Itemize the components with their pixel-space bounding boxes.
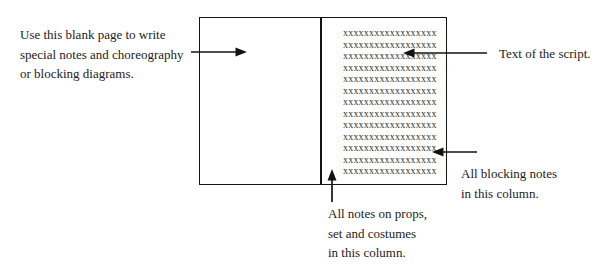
script-line: xxxxxxxxxxxxxxxxxx (343, 62, 437, 74)
script-line: xxxxxxxxxxxxxxxxxx (343, 119, 437, 131)
script-line: xxxxxxxxxxxxxxxxxx (343, 96, 437, 108)
script-line: xxxxxxxxxxxxxxxxxx (343, 85, 437, 97)
script-line: xxxxxxxxxxxxxxxxxx (343, 39, 437, 51)
blocking-notes-line-2: in this column. (461, 184, 557, 204)
blank-page-note-line-3: or blocking diagrams. (20, 64, 184, 84)
blank-page-note-line-1: Use this blank page to write (20, 25, 184, 45)
props-note-line-3: in this column. (328, 243, 427, 263)
script-text-column: xxxxxxxxxxxxxxxxxxxxxxxxxxxxxxxxxxxxxxxx… (343, 27, 437, 177)
page-divider-line (320, 18, 322, 184)
blank-page-note-line-2: special notes and choreography (20, 45, 184, 65)
figure-canvas: xxxxxxxxxxxxxxxxxxxxxxxxxxxxxxxxxxxxxxxx… (0, 0, 607, 270)
script-line: xxxxxxxxxxxxxxxxxx (343, 27, 437, 39)
script-line: xxxxxxxxxxxxxxxxxx (343, 50, 437, 62)
blocking-notes-note: All blocking notes in this column. (461, 164, 557, 203)
props-note: All notes on props, set and costumes in … (328, 204, 427, 263)
props-note-line-1: All notes on props, (328, 204, 427, 224)
script-line: xxxxxxxxxxxxxxxxxx (343, 154, 437, 166)
blocking-notes-line-1: All blocking notes (461, 164, 557, 184)
props-note-line-2: set and costumes (328, 224, 427, 244)
script-line: xxxxxxxxxxxxxxxxxx (343, 73, 437, 85)
script-text-note-label: Text of the script. (499, 44, 591, 64)
script-text-note: Text of the script. (499, 44, 591, 64)
script-line: xxxxxxxxxxxxxxxxxx (343, 165, 437, 177)
script-line: xxxxxxxxxxxxxxxxxx (343, 142, 437, 154)
blank-page-note: Use this blank page to write special not… (20, 25, 184, 84)
script-line: xxxxxxxxxxxxxxxxxx (343, 131, 437, 143)
script-line: xxxxxxxxxxxxxxxxxx (343, 108, 437, 120)
